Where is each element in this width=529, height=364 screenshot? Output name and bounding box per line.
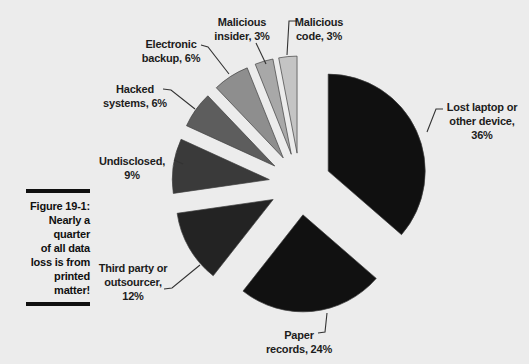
leader-line-paper-records — [318, 313, 327, 333]
slice-label-line: insider, 3% — [214, 30, 270, 42]
slice-label-line: 36% — [471, 129, 493, 141]
leader-line-lost-laptop-or-other-device — [427, 109, 443, 132]
slice-label-line: code, 3% — [296, 30, 343, 42]
slice-label-line: 9% — [124, 169, 140, 181]
caption-bottom-rule — [26, 302, 90, 306]
caption-text: Figure 19-1: Nearly a quarter of all dat… — [26, 199, 90, 297]
slice-label-line: backup, 6% — [142, 52, 201, 64]
slice-label-undisclosed: Undisclosed,9% — [99, 155, 165, 181]
leader-line-malicious-insider — [256, 43, 266, 64]
slice-label-malicious-code: Maliciouscode, 3% — [295, 16, 343, 42]
slice-label-electronic-backup: Electronicbackup, 6% — [142, 38, 201, 64]
slice-label-line: Malicious — [295, 16, 343, 28]
slice-label-line: Electronic — [145, 38, 196, 50]
exploded-pie-chart: Lost laptop orother device,36%Paperrecor… — [0, 0, 529, 364]
caption-line: of all data — [26, 241, 90, 255]
slice-label-line: Malicious — [218, 16, 266, 28]
figure-number: Figure 19-1: — [26, 199, 90, 213]
slice-label-third-party-or-outsourcer: Third party oroutsourcer,12% — [99, 262, 169, 302]
slice-label-line: Paper — [284, 329, 314, 341]
slice-label-malicious-insider: Maliciousinsider, 3% — [214, 16, 270, 42]
pie-slice-paper-records — [243, 215, 376, 312]
figure-caption: Figure 19-1: Nearly a quarter of all dat… — [26, 189, 90, 306]
caption-line: printed — [26, 269, 90, 283]
figure-panel: Lost laptop orother device,36%Paperrecor… — [0, 0, 529, 364]
slice-label-line: Lost laptop or — [447, 101, 518, 113]
caption-top-rule — [26, 189, 90, 193]
slice-label-line: Undisclosed, — [99, 155, 165, 167]
caption-line: Nearly a — [26, 213, 90, 227]
slice-label-hacked-systems: Hackedsystems, 6% — [103, 83, 167, 109]
slice-label-line: other device, — [449, 115, 514, 127]
pie-slice-lost-laptop-or-other-device — [328, 74, 425, 235]
caption-line: loss is from — [26, 255, 90, 269]
leader-line-electronic-backup — [201, 45, 229, 74]
slice-label-line: outsourcer, — [104, 276, 162, 288]
caption-line: quarter — [26, 227, 90, 241]
slice-label-lost-laptop-or-other-device: Lost laptop orother device,36% — [447, 101, 518, 141]
slice-label-line: records, 24% — [266, 343, 333, 355]
leader-line-third-party-or-outsourcer — [164, 265, 200, 289]
slice-label-line: Hacked — [116, 83, 154, 95]
slice-label-line: 12% — [122, 290, 144, 302]
caption-line: matter! — [26, 283, 90, 297]
leader-line-hacked-systems — [163, 89, 195, 109]
slice-label-line: Third party or — [99, 262, 169, 274]
slice-label-line: systems, 6% — [103, 97, 167, 109]
pie-slice-third-party-or-outsourcer — [177, 200, 273, 276]
